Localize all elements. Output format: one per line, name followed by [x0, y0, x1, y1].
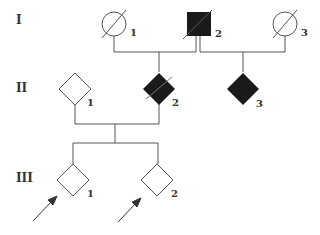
pedigree-chart: I II III 1 2 3	[0, 0, 320, 235]
individual-III-1[interactable]: 1	[57, 164, 94, 199]
individual-III-2[interactable]: 2	[141, 164, 178, 199]
individual-II-2[interactable]: 2	[143, 73, 179, 108]
generation-label-1: I	[16, 13, 22, 27]
generation-label-2: II	[16, 81, 28, 95]
generation-label-3: III	[16, 171, 33, 185]
sex-unknown-affected-icon	[227, 73, 259, 105]
individual-number: 2	[215, 28, 222, 39]
individual-number: 2	[171, 188, 178, 199]
individual-number: 3	[256, 98, 263, 109]
individual-number: 2	[172, 97, 179, 108]
individual-number: 1	[130, 27, 137, 38]
individual-number: 3	[301, 27, 308, 38]
proband-arrows	[33, 196, 141, 222]
sex-unknown-affected-icon	[143, 73, 175, 105]
sex-unknown-unaffected-icon	[141, 164, 173, 196]
individual-I-2[interactable]: 2	[183, 10, 222, 39]
individual-II-3[interactable]: 3	[227, 73, 263, 109]
individual-I-3[interactable]: 3	[273, 10, 308, 38]
sex-unknown-unaffected-icon	[57, 164, 89, 196]
male-affected-icon	[187, 12, 211, 36]
individual-II-1[interactable]: 1	[59, 73, 94, 108]
individual-number: 1	[87, 97, 94, 108]
individual-number: 1	[87, 188, 94, 199]
individual-I-1[interactable]: 1	[102, 10, 137, 38]
connector-lines	[73, 36, 285, 164]
